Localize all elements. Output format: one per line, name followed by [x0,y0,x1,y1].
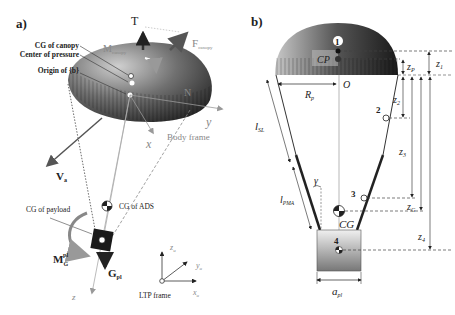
cg-canopy-marker [129,74,134,79]
label-point-1: 1 [335,37,340,47]
label-xu: xu [192,288,200,298]
label-z2: z2 [392,94,400,106]
label-ltp-frame: LTP frame [139,291,171,300]
panel-b-tag: b) [251,14,263,29]
point-2-marker [383,115,389,121]
label-lSL: lSL [255,120,265,133]
center-pressure-marker [130,81,135,86]
moment-payload-arrow [69,213,87,255]
suspension-line [110,110,190,240]
label-Gpl: Gpl [108,267,122,280]
label-zu: zu [169,243,176,253]
point-3-marker [361,195,367,201]
label-apl: apl [332,285,343,298]
label-origin-b: Origin of {b} [38,66,79,75]
label-F-canopy: Fcanopy [192,37,213,50]
canopy-a [68,42,212,122]
label-x: x [145,137,152,151]
figure-canvas: a) T Fcanopy Mcanopy N CG of canopy Cen [0,0,455,315]
cg-canopy-b-marker [336,49,341,54]
label-y: y [205,115,212,129]
label-center-pressure: Center of pressure [20,50,80,59]
label-N: N [184,87,191,98]
lsl-dimension [267,80,290,162]
label-MG: MGpl [53,252,68,267]
label-Va: Va [56,170,67,183]
label-CG: CG [339,218,354,230]
label-T: T [131,14,139,28]
payload-box-a [90,228,113,251]
label-gamma: γ [314,175,319,186]
label-point-4: 4 [334,236,339,246]
cg-ads-marker [102,201,112,211]
label-point-3: 3 [351,189,356,199]
label-z1: z1 [435,58,443,70]
label-cg-canopy: CG of canopy [35,41,79,50]
label-Rp: Rp [304,89,314,101]
label-CP: CP [317,54,330,65]
cp-marker [335,56,341,62]
label-point-2: 2 [376,105,381,115]
ltp-frame [160,252,196,283]
label-yu: yu [195,261,203,271]
z-axis-body [92,95,130,293]
label-z: z [71,292,76,302]
label-cg-ads: CG of ADS [119,202,154,211]
label-z4: z4 [417,231,425,243]
right-pma-line [357,155,383,230]
point-4-marker [336,247,343,254]
airspeed-arrow [48,118,102,165]
label-zP: zP [406,61,415,73]
label-lPMA: lPMA [280,194,295,206]
panel-a-tag: a) [16,16,27,31]
panel-a: a) T Fcanopy Mcanopy N CG of canopy Cen [16,14,222,302]
label-cg-payload: CG of payload [26,205,70,214]
label-O: O [343,79,350,90]
label-zG: zG [406,201,416,213]
label-z3: z3 [398,146,406,158]
left-suspension-line [276,75,296,155]
cg-system-marker [334,206,345,217]
label-body-frame: Body frame [167,132,210,142]
panel-b: b) 1 CP O Rp lSL lPMA [251,14,452,298]
